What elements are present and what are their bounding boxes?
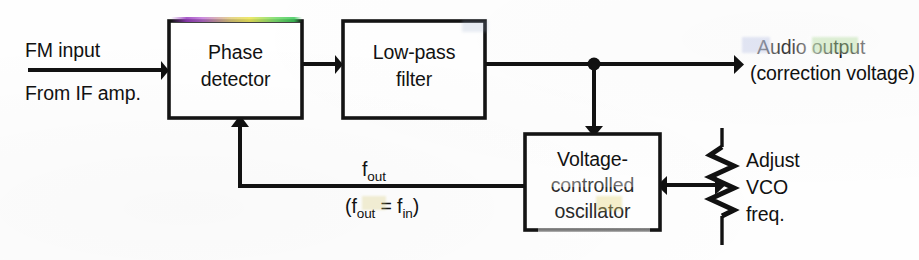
low-pass-filter-label-line2: filter: [396, 68, 433, 90]
wire-detector-to-filter: [302, 55, 343, 74]
wire-fm-input: [28, 61, 169, 80]
f-rel-open: (f: [345, 195, 357, 217]
label-audio-output: Audio output: [757, 36, 866, 58]
f-rel-sub-out: out: [357, 206, 376, 221]
label-freq: freq.: [746, 203, 785, 225]
f-rel-eq: = f: [375, 195, 403, 217]
diagram-canvas: Phase detector Low-pass filter Voltage- …: [0, 0, 919, 260]
svg-text:fout: fout: [362, 158, 386, 184]
f-out-subscript: out: [367, 169, 386, 184]
label-correction-voltage: (correction voltage): [750, 62, 915, 84]
vco-label-line2: controlled: [551, 174, 635, 196]
label-from-if-amp: From IF amp.: [25, 82, 141, 104]
label-fm-input: FM input: [25, 39, 101, 61]
label-adjust: Adjust: [746, 149, 800, 171]
label-f-relation: (fout = fin): [345, 195, 419, 221]
vco-label-line1: Voltage-: [557, 148, 628, 170]
f-rel-close: ): [413, 195, 419, 217]
low-pass-filter-label-line1: Low-pass: [373, 41, 456, 63]
phase-detector-label-line1: Phase: [208, 41, 263, 63]
label-f-out: fout: [362, 158, 386, 184]
wire-junction-to-vco: [585, 64, 603, 137]
wire-filter-to-audio: [485, 55, 744, 74]
vco-label-line3: oscillator: [555, 200, 632, 222]
label-vco-short: VCO: [746, 176, 788, 198]
pll-block-diagram: Phase detector Low-pass filter Voltage- …: [0, 0, 919, 260]
f-rel-sub-in: in: [402, 206, 412, 221]
phase-detector-label-line2: detector: [201, 68, 271, 90]
svg-text:(fout = fin): (fout = fin): [345, 195, 419, 221]
